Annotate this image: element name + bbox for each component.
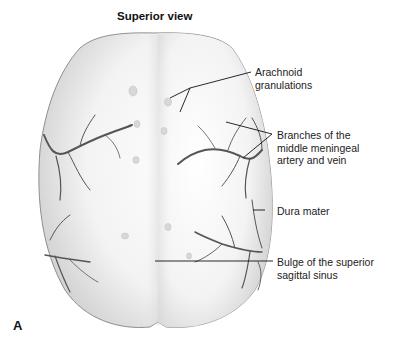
label-line: Arachnoid [255, 66, 312, 79]
figure-title: Superior view [117, 10, 192, 22]
label-dura-mater: Dura mater [277, 205, 330, 218]
label-middle-meningeal-branches: Branches of the middle meningeal artery … [277, 129, 359, 167]
label-sagittal-sinus-bulge: Bulge of the superior sagittal sinus [277, 256, 374, 281]
label-arachnoid-granulations: Arachnoid granulations [255, 66, 312, 91]
label-line: sagittal sinus [277, 269, 374, 282]
panel-label: A [13, 318, 22, 333]
label-line: middle meningeal [277, 142, 359, 155]
brain-dura-illustration [0, 0, 394, 353]
label-line: Bulge of the superior [277, 256, 374, 269]
label-line: granulations [255, 79, 312, 92]
label-line: Branches of the [277, 129, 359, 142]
label-line: Dura mater [277, 205, 330, 218]
label-line: artery and vein [277, 154, 359, 167]
